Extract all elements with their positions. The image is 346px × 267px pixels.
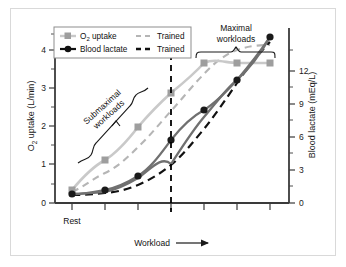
- y-left-tick-4: 4: [41, 45, 46, 55]
- x-axis-rest-label: Rest: [63, 216, 81, 226]
- y-left-tick-1: 1: [41, 159, 46, 169]
- annotation-maximal-line2: workloads: [216, 34, 255, 44]
- y-left-tick-3: 3: [41, 83, 46, 93]
- x-axis-title: Workload: [134, 238, 170, 248]
- y-right-tick-9: 9: [299, 99, 304, 109]
- legend-label-o2-uptake: O2 uptake: [80, 32, 117, 42]
- y-axis-right-tick-labels: 0 3 6 9 12: [299, 66, 309, 208]
- y-left-tick-0: 0: [41, 198, 46, 208]
- y-right-tick-3: 3: [299, 165, 304, 175]
- legend-label-lactate-trained: Trained: [157, 45, 185, 54]
- annotation-submaximal: Submaximal workloads: [81, 87, 129, 133]
- y-right-tick-6: 6: [299, 132, 304, 142]
- legend-marker-square-icon: [65, 33, 72, 40]
- annotation-maximal-line1: Maximal: [220, 23, 252, 33]
- legend-label-o2-trained: Trained: [157, 32, 185, 41]
- y-right-tick-0: 0: [299, 198, 304, 208]
- figure-container: O2 uptake (L/min) Blood lactate (mEq/L): [0, 0, 346, 267]
- y-right-tick-12: 12: [299, 66, 309, 76]
- legend-label-blood-lactate: Blood lactate: [80, 45, 128, 54]
- y-left-tick-2: 2: [41, 121, 46, 131]
- y-axis-left-tick-labels: 0 1 2 3 4: [41, 45, 46, 208]
- chart-plot: Submaximal workloads Maximal workloads 0…: [0, 0, 346, 267]
- legend-marker-circle-icon: [65, 46, 72, 53]
- chart-legend: O2 uptake Blood lactate Trained Trained: [54, 27, 191, 58]
- x-axis-title-group: Workload: [134, 238, 208, 248]
- annotation-maximal: Maximal workloads: [216, 23, 255, 44]
